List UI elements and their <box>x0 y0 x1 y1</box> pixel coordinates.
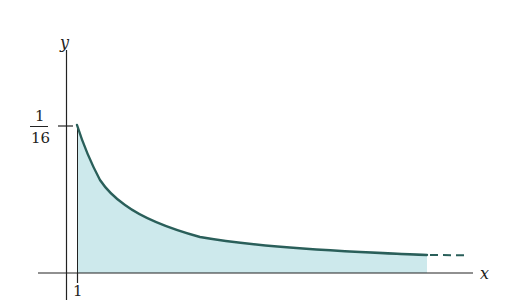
chart-canvas: y x 1 1 16 <box>0 0 517 307</box>
y-axis-label: y <box>59 33 70 52</box>
y-tick-label-numerator: 1 <box>35 107 45 125</box>
x-axis-label: x <box>480 264 489 283</box>
x-tick-label-1: 1 <box>73 282 83 300</box>
shaded-area <box>77 125 427 273</box>
y-tick-label-denominator: 16 <box>31 129 50 147</box>
